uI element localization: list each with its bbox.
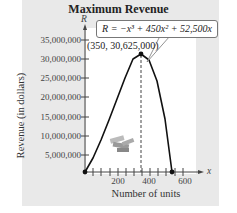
y-axis-name: R xyxy=(81,14,87,24)
equation-callout: R = −x³ + 450x² + 52,500x xyxy=(96,20,218,38)
x-axis-name: x xyxy=(207,166,211,176)
peak-point xyxy=(139,52,144,57)
peak-label: (350, 30,625,000) xyxy=(87,40,159,51)
zero-point xyxy=(170,170,175,175)
money-stack-icon xyxy=(110,135,135,152)
y-axis-arrow-icon xyxy=(83,24,87,30)
origin-point xyxy=(83,170,88,175)
revenue-curve xyxy=(85,54,172,172)
x-axis-arrow-icon xyxy=(198,170,204,174)
